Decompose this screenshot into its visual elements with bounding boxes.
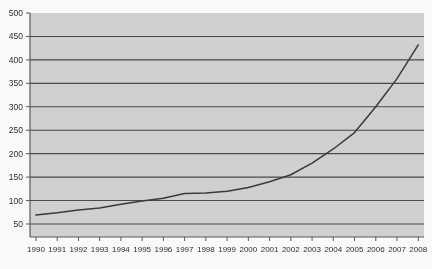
x-tick-label: 1991 <box>48 245 66 254</box>
y-tick-label: 200 <box>9 149 23 159</box>
x-axis-tick-marks <box>36 237 418 241</box>
plot-area-background <box>30 13 424 237</box>
y-tick-label: 450 <box>9 31 23 41</box>
x-tick-label: 2007 <box>388 245 406 254</box>
x-tick-label: 2003 <box>303 245 321 254</box>
x-tick-label: 1996 <box>154 245 172 254</box>
x-axis-tick-labels: 1990199119921993199419951996199719981999… <box>27 245 428 254</box>
x-tick-label: 1998 <box>197 245 215 254</box>
line-chart: 50100150200250300350400450500 1990199119… <box>0 0 432 269</box>
x-tick-label: 2000 <box>239 245 257 254</box>
x-tick-label: 2006 <box>367 245 385 254</box>
x-tick-label: 1990 <box>27 245 45 254</box>
y-tick-label: 150 <box>9 172 23 182</box>
y-axis-tick-labels: 50100150200250300350400450500 <box>9 8 23 229</box>
x-tick-label: 2008 <box>409 245 427 254</box>
x-tick-label: 2004 <box>324 245 342 254</box>
x-tick-label: 1995 <box>133 245 151 254</box>
y-tick-label: 500 <box>9 8 23 18</box>
y-tick-label: 350 <box>9 78 23 88</box>
chart-container: 50100150200250300350400450500 1990199119… <box>0 0 432 269</box>
y-tick-label: 300 <box>9 102 23 112</box>
y-tick-label: 50 <box>14 219 24 229</box>
x-tick-label: 1994 <box>112 245 130 254</box>
y-tick-label: 250 <box>9 125 23 135</box>
y-tick-label: 100 <box>9 196 23 206</box>
x-tick-label: 2001 <box>261 245 279 254</box>
x-tick-label: 2005 <box>346 245 364 254</box>
x-tick-label: 2002 <box>282 245 300 254</box>
x-tick-label: 1993 <box>91 245 109 254</box>
y-tick-label: 400 <box>9 55 23 65</box>
x-tick-label: 1999 <box>218 245 236 254</box>
x-tick-label: 1992 <box>70 245 88 254</box>
x-tick-label: 1997 <box>176 245 194 254</box>
